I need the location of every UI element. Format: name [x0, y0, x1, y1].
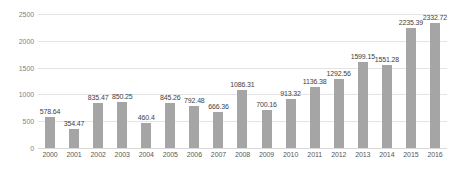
bar [45, 117, 55, 148]
bar-value-label: 1292.56 [327, 70, 351, 77]
y-axis-tick-label: 1500 [0, 64, 34, 71]
x-axis: 2000200120022003200420052006200720082009… [38, 151, 447, 167]
bar-value-label: 835.47 [88, 94, 109, 101]
x-axis-tick-label: 2009 [259, 151, 274, 158]
x-axis-tick-label: 2008 [235, 151, 250, 158]
bar-group: 460.4 [134, 14, 158, 148]
bar [334, 79, 344, 148]
y-axis-tick-label: 2500 [0, 11, 34, 18]
x-axis-tick-label: 2003 [115, 151, 130, 158]
x-axis-tick-label: 2011 [307, 151, 322, 158]
bar [165, 103, 175, 148]
bar-value-label: 460.4 [138, 114, 155, 121]
x-axis-tick-label: 2005 [163, 151, 178, 158]
bar-group: 666.36 [206, 14, 230, 148]
x-axis-tick-label: 2013 [355, 151, 370, 158]
y-axis-tick-label: 2000 [0, 37, 34, 44]
bar [430, 23, 440, 148]
bar [93, 103, 103, 148]
bar-group: 700.16 [255, 14, 279, 148]
bar-group: 1086.31 [230, 14, 254, 148]
bar-group: 835.47 [86, 14, 110, 148]
y-axis: 05001000150020002500 [0, 14, 34, 148]
y-axis-tick-label: 1000 [0, 91, 34, 98]
x-axis-tick-label: 2001 [66, 151, 81, 158]
bar-value-label: 913.32 [280, 90, 301, 97]
bar [286, 99, 296, 148]
bar-group: 850.25 [110, 14, 134, 148]
bar [69, 129, 79, 148]
bar [213, 112, 223, 148]
bar-value-label: 1136.38 [303, 78, 327, 85]
bar-group: 913.32 [279, 14, 303, 148]
y-axis-tick-label: 0 [0, 145, 34, 152]
bar-value-label: 578.64 [40, 108, 61, 115]
bar-group: 1599.15 [351, 14, 375, 148]
bar-value-label: 700.16 [256, 101, 277, 108]
x-axis-tick-label: 2004 [139, 151, 154, 158]
bar-group: 354.47 [62, 14, 86, 148]
bar-value-label: 354.47 [64, 120, 85, 127]
bar-group: 1136.38 [303, 14, 327, 148]
bar-group: 2332.72 [423, 14, 447, 148]
x-axis-tick-label: 2016 [427, 151, 442, 158]
bar-value-label: 2235.39 [399, 19, 423, 26]
bar-group: 1292.56 [327, 14, 351, 148]
bar [358, 62, 368, 148]
bar [117, 102, 127, 148]
bar [189, 106, 199, 148]
bar-chart: 05001000150020002500 578.64354.47835.478… [0, 0, 453, 175]
bar [141, 123, 151, 148]
bar-value-label: 1551.28 [375, 56, 399, 63]
bar-value-label: 850.25 [112, 93, 133, 100]
x-axis-tick-label: 2006 [187, 151, 202, 158]
bar-value-label: 792.48 [184, 97, 205, 104]
x-axis-tick-label: 2012 [331, 151, 346, 158]
bar [262, 110, 272, 148]
x-axis-tick-label: 2010 [283, 151, 298, 158]
bar-value-label: 845.26 [160, 94, 181, 101]
bar-series: 578.64354.47835.47850.25460.4845.26792.4… [38, 14, 447, 148]
bar-value-label: 2332.72 [423, 14, 447, 21]
bar [406, 28, 416, 148]
bar-group: 792.48 [182, 14, 206, 148]
bar-group: 578.64 [38, 14, 62, 148]
bar-group: 2235.39 [399, 14, 423, 148]
x-axis-tick-label: 2007 [211, 151, 226, 158]
bar-value-label: 1086.31 [230, 81, 254, 88]
bar [310, 87, 320, 148]
y-axis-tick-label: 500 [0, 118, 34, 125]
x-axis-tick-label: 2014 [379, 151, 394, 158]
bar-value-label: 1599.15 [351, 53, 375, 60]
x-axis-tick-label: 2002 [91, 151, 106, 158]
bar [382, 65, 392, 148]
bar-group: 1551.28 [375, 14, 399, 148]
bar-value-label: 666.36 [208, 103, 229, 110]
x-axis-tick-label: 2000 [42, 151, 57, 158]
bar [237, 90, 247, 148]
bar-group: 845.26 [158, 14, 182, 148]
gridline-0 [38, 148, 447, 149]
plot-area: 578.64354.47835.47850.25460.4845.26792.4… [38, 14, 447, 148]
x-axis-tick-label: 2015 [403, 151, 418, 158]
